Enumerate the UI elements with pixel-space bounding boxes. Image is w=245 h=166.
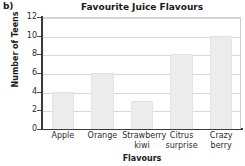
- x-axis-tick-label-line: Crazy: [201, 131, 241, 141]
- y-axis-tick-label: 0: [3, 125, 37, 133]
- x-axis-tick-label-line: surprise: [162, 141, 202, 151]
- x-axis-title: Flavours: [43, 154, 241, 163]
- y-axis-tick-mark: [37, 73, 41, 74]
- x-axis-tick-label-line: berry: [201, 141, 241, 151]
- y-axis-tick-label: 4: [3, 88, 37, 96]
- x-axis-tick-label-line: kiwi: [122, 141, 162, 151]
- y-axis-tick-label: 12: [3, 13, 37, 21]
- x-axis-tick-label-line: Orange: [83, 131, 123, 141]
- bar: [52, 92, 74, 129]
- y-axis-tick-mark: [37, 129, 41, 130]
- x-axis-tick-label-line: Apple: [43, 131, 83, 141]
- x-axis-tick-label: Strawberrykiwi: [122, 131, 162, 150]
- y-axis-tick-mark: [37, 17, 41, 18]
- plot-area: [43, 17, 241, 129]
- bar-chart-figure: b) Favourite Juice Flavours Number of Te…: [0, 0, 245, 166]
- y-axis-tick-label: 2: [3, 106, 37, 114]
- x-axis-tick-label: Citrussurprise: [162, 131, 202, 150]
- y-axis-tick-label: 8: [3, 50, 37, 58]
- x-axis-tick-label-line: Strawberry: [122, 131, 162, 141]
- x-axis-tick-label: Crazyberry: [201, 131, 241, 150]
- bars-group: [43, 18, 240, 129]
- chart-title: Favourite Juice Flavours: [43, 1, 241, 13]
- bar: [91, 73, 113, 129]
- y-axis-tick-labels: 024681012: [0, 0, 37, 166]
- y-axis-tick-mark: [37, 92, 41, 93]
- bar: [170, 54, 192, 129]
- x-axis-tick-labels: AppleOrangeStrawberrykiwiCitrussurpriseC…: [43, 131, 241, 155]
- y-axis-tick-label: 10: [3, 32, 37, 40]
- y-axis-tick-mark: [37, 110, 41, 111]
- y-axis-tick-mark: [37, 36, 41, 37]
- bar: [131, 101, 153, 129]
- x-axis-tick-label: Apple: [43, 131, 83, 141]
- y-axis-tick-label: 6: [3, 69, 37, 77]
- x-axis-tick-label: Orange: [83, 131, 123, 141]
- bar: [210, 36, 232, 129]
- x-axis-tick-label-line: Citrus: [162, 131, 202, 141]
- y-axis-tick-mark: [37, 54, 41, 55]
